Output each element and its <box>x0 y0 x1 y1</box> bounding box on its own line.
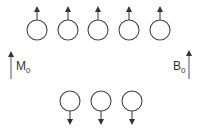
spin-up-row <box>27 9 170 40</box>
magnetization-label: M0 <box>16 60 30 77</box>
field-label-main: B <box>173 59 181 73</box>
nucleus-circle-icon <box>58 20 78 40</box>
spin-down-nucleus <box>91 91 111 122</box>
nucleus-circle-icon <box>119 20 139 40</box>
field-label: B0 <box>173 60 185 77</box>
nucleus-circle-icon <box>27 20 47 40</box>
nucleus-circle-icon <box>60 91 80 111</box>
spin-up-nucleus <box>150 9 170 40</box>
nucleus-circle-icon <box>91 91 111 111</box>
spin-up-nucleus <box>58 9 78 40</box>
field-label-sub: 0 <box>181 66 185 75</box>
spin-up-nucleus <box>27 9 47 40</box>
nucleus-circle-icon <box>122 91 142 111</box>
nucleus-circle-icon <box>150 20 170 40</box>
spin-up-nucleus <box>119 9 139 40</box>
spin-down-nucleus <box>60 91 80 122</box>
spin-up-nucleus <box>88 9 108 40</box>
spin-down-row <box>60 91 142 122</box>
magnetization-label-sub: 0 <box>26 66 30 75</box>
nucleus-circle-icon <box>88 20 108 40</box>
magnetization-label-main: M <box>16 59 26 73</box>
spin-down-nucleus <box>122 91 142 122</box>
